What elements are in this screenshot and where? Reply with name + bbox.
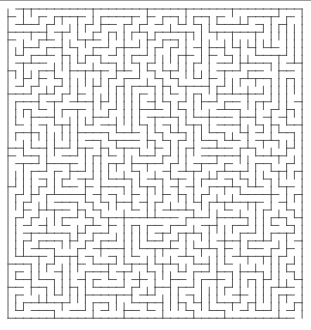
- maze-walls: [8, 9, 302, 318]
- maze-grid: [0, 0, 311, 330]
